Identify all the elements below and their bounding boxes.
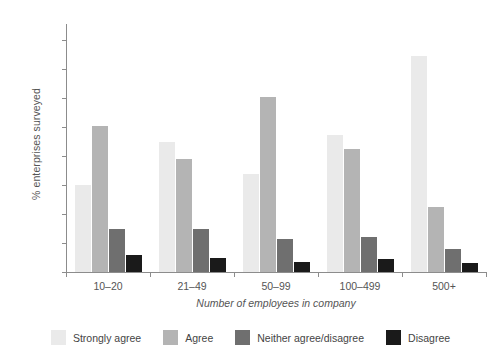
bar-chart: % enterprises surveyed 01020304050607080… [0, 0, 501, 359]
legend-item: Strongly agree [51, 330, 141, 345]
bar-group [327, 26, 394, 272]
bar [92, 126, 108, 272]
y-tick-mark [62, 243, 67, 244]
bar [327, 135, 343, 272]
bar [462, 263, 478, 272]
legend-swatch [51, 330, 66, 345]
legend-label: Neither agree/disagree [257, 332, 364, 344]
y-tick-mark [62, 98, 67, 99]
bar [428, 207, 444, 272]
bar [344, 149, 360, 272]
bar [193, 229, 209, 272]
y-tick-mark [62, 69, 67, 70]
y-tick-mark [62, 40, 67, 41]
bar [294, 262, 310, 272]
x-tick-mark [318, 272, 319, 277]
bar [361, 237, 377, 272]
bar [210, 258, 226, 272]
x-tick-label: 10–20 [63, 280, 153, 292]
bar [159, 142, 175, 272]
x-tick-mark [234, 272, 235, 277]
legend-item: Neither agree/disagree [235, 330, 364, 345]
y-tick-mark [62, 185, 67, 186]
bar [378, 259, 394, 272]
legend-label: Disagree [408, 332, 450, 344]
y-axis-line [66, 24, 67, 272]
x-tick-mark [150, 272, 151, 277]
bar [411, 56, 427, 272]
bar-group [243, 26, 310, 272]
x-tick-label: 500+ [399, 280, 489, 292]
x-axis-title: Number of employees in company [66, 297, 486, 309]
bar-group [411, 26, 478, 272]
x-axis-line [66, 272, 486, 273]
y-tick-mark [62, 214, 67, 215]
x-tick-label: 50–99 [231, 280, 321, 292]
chart-legend: Strongly agreeAgreeNeither agree/disagre… [0, 330, 501, 345]
x-tick-label: 21–49 [147, 280, 237, 292]
legend-swatch [163, 330, 178, 345]
y-axis-title: % enterprises surveyed [30, 24, 42, 264]
bar [109, 229, 125, 272]
legend-item: Disagree [386, 330, 450, 345]
plot-area: 01020304050607080 10–2021–4950–99100–499… [66, 26, 486, 272]
y-tick-mark [62, 127, 67, 128]
legend-item: Agree [163, 330, 213, 345]
x-tick-label: 100–499 [315, 280, 405, 292]
bar [75, 185, 91, 272]
bar-group [159, 26, 226, 272]
x-tick-mark [486, 272, 487, 277]
bar [126, 255, 142, 272]
bar [445, 249, 461, 272]
bar [277, 239, 293, 272]
x-tick-mark [402, 272, 403, 277]
legend-label: Agree [185, 332, 213, 344]
bar-group [75, 26, 142, 272]
legend-swatch [235, 330, 250, 345]
y-tick-mark [62, 156, 67, 157]
x-tick-mark [66, 272, 67, 277]
bar [176, 159, 192, 272]
bar [260, 97, 276, 272]
bar [243, 174, 259, 272]
legend-label: Strongly agree [73, 332, 141, 344]
legend-swatch [386, 330, 401, 345]
